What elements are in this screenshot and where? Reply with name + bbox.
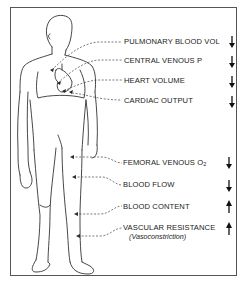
- label-femoral-venous-o2: FEMORAL VENOUS O2: [123, 158, 206, 169]
- leader-pulmonary: [52, 42, 122, 70]
- heart-outline: [55, 69, 72, 93]
- label-cardiac-output: CARDIAC OUTPUT: [124, 96, 193, 105]
- arrow-up-icon-content: [226, 200, 232, 213]
- label-pulmonary-blood-vol: PULMONARY BLOOD VOL: [124, 37, 220, 46]
- label-blood-content: BLOOD CONTENT: [123, 202, 190, 211]
- label-vasoconstriction-note: (Vasoconstriction): [129, 232, 186, 241]
- leader-content: [76, 206, 122, 214]
- arrow-down-icon-pulmonary: [229, 36, 235, 48]
- arrow-up-icon-resistance: [226, 222, 232, 235]
- label-vascular-resistance: VASCULAR RESISTANCE: [123, 223, 215, 232]
- head-outline: [46, 15, 72, 50]
- arrow-down-icon-cvp: [229, 56, 235, 68]
- label-blood-flow: BLOOD FLOW: [123, 180, 175, 189]
- leader-heart: [64, 80, 122, 91]
- right-leg-outline: [80, 150, 82, 262]
- torso-outline: [20, 54, 52, 92]
- label-central-venous-p: CENTRAL VENOUS P: [124, 56, 202, 65]
- label-femoral-subscript: 2: [203, 161, 206, 167]
- label-femoral-text: FEMORAL VENOUS O: [123, 158, 203, 167]
- arrow-down-icon-femoral: [226, 157, 232, 169]
- left-leg-outline: [34, 150, 40, 260]
- leader-cvp: [58, 60, 122, 83]
- arrow-down-icon-cardiac: [229, 96, 235, 108]
- arrow-down-icon-flow: [226, 180, 232, 192]
- arrow-down-icon-heart: [229, 76, 235, 88]
- leader-resistance: [78, 228, 122, 236]
- label-heart-volume: HEART VOLUME: [124, 76, 185, 85]
- leader-femoral: [72, 157, 122, 163]
